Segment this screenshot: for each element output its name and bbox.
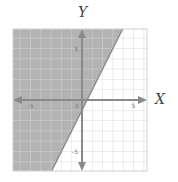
inequality-graph: -5055-5 <box>0 0 178 182</box>
x-tick-label: -5 <box>28 102 34 109</box>
x-axis-right-arrow-icon <box>138 96 147 104</box>
y-axis-down-arrow-icon <box>78 162 86 171</box>
x-axis-label: X <box>155 91 165 107</box>
y-axis-label: Y <box>78 4 87 20</box>
y-tick-label: -5 <box>72 148 78 155</box>
x-tick-label: 5 <box>132 102 136 109</box>
x-tick-label: 0 <box>75 102 79 109</box>
y-tick-label: 5 <box>74 45 78 52</box>
